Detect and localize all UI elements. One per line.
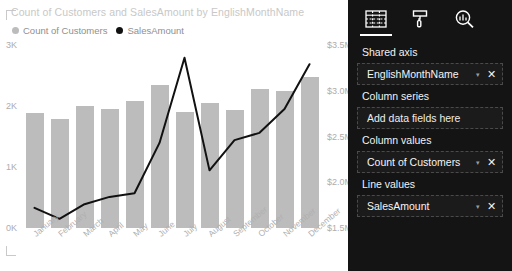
field-chip-label: EnglishMonthName [367,68,476,80]
fields-tab[interactable] [362,6,390,32]
y-axis-left-tick: 0K [6,223,17,233]
paint-roller-icon [410,9,430,29]
field-chip-label: Count of Customers [367,156,476,168]
legend-item-salesamount[interactable]: SalesAmount [116,25,184,36]
analytics-tab[interactable] [450,6,478,32]
well-label-line-values: Line values [348,173,512,195]
well-placeholder: Add data fields here [367,112,460,124]
visualizations-fields-pane: Shared axisEnglishMonthName▾✕Column seri… [348,0,512,271]
analytics-magnifier-icon [454,9,475,29]
y-axis-right-tick: $3.5M [327,40,348,50]
legend-label: Count of Customers [23,25,107,36]
field-chip-label: SalesAmount [367,200,476,212]
chart-legend: Count of Customers SalesAmount [12,25,184,36]
remove-field-icon[interactable]: ✕ [487,157,496,168]
fields-grid-icon [365,10,387,28]
y-axis-left-tick: 1K [6,162,17,172]
legend-label: SalesAmount [127,25,184,36]
y-axis-left-tick: 2K [6,101,17,111]
chart-visual[interactable]: Count of Customers and SalesAmount by En… [0,0,348,271]
legend-item-count-of-customers[interactable]: Count of Customers [12,25,107,36]
y-axis-right-tick: $2.5M [327,132,348,142]
well-dropzone-column-series[interactable]: Add data fields here [357,107,503,129]
well-label-column-values: Column values [348,129,512,151]
well-dropzone-shared-axis[interactable]: EnglishMonthName▾✕ [357,63,503,85]
chart-title: Count of Customers and SalesAmount by En… [11,6,304,18]
y-axis-right-tick: $3.0M [327,86,348,96]
y-axis-right-tick: $1.5M [327,223,348,233]
plot-area: 0K1K2K3K $1.5M$2.0M$2.5M$3.0M$3.5M [22,45,322,228]
format-tab[interactable] [406,6,434,32]
salesamount-line [35,58,310,219]
well-label-shared-axis: Shared axis [348,41,512,63]
x-axis-category-labels: JanuaryFebruaryMarchAprilMayJuneJulyAugu… [22,228,322,271]
pane-tab-strip [348,6,512,40]
remove-field-icon[interactable]: ✕ [487,69,496,80]
well-dropzone-line-values[interactable]: SalesAmount▾✕ [357,195,503,217]
remove-field-icon[interactable]: ✕ [487,201,496,212]
field-wells: Shared axisEnglishMonthName▾✕Column seri… [348,41,512,217]
legend-marker-circle [12,27,19,34]
well-label-column-series: Column series [348,85,512,107]
well-dropzone-column-values[interactable]: Count of Customers▾✕ [357,151,503,173]
legend-marker-circle [116,27,123,34]
line-series-salesamount [22,45,322,228]
chevron-down-icon[interactable]: ▾ [476,159,480,166]
y-axis-right-tick: $2.0M [327,177,348,187]
chevron-down-icon[interactable]: ▾ [476,71,480,78]
y-axis-left-tick: 3K [6,40,17,50]
chevron-down-icon[interactable]: ▾ [476,203,480,210]
visual-selection-handle-bottom-left [6,246,16,256]
